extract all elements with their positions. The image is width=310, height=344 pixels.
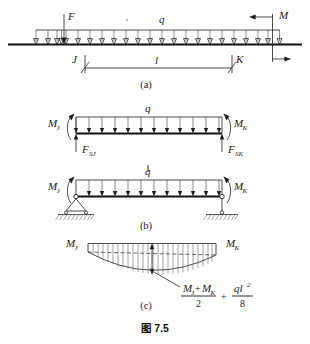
moment-arc-left-b-upper <box>67 114 74 141</box>
formula-denominator-1: 2 <box>196 298 201 309</box>
distributed-load-label-q-b-upper: q <box>145 102 151 114</box>
node-label-K: K <box>235 53 244 65</box>
part-c-group: M J M K M J + M K 2 + ql 2 <box>65 237 253 312</box>
part-b-lower-group: q M J M K <box>47 165 248 232</box>
figure-page: F q M J K <box>0 0 310 344</box>
figure-7-5-canvas: F q M J K <box>0 0 310 344</box>
shear-label-right-sub-b-upper: SK <box>235 150 244 158</box>
distributed-load-label-q-b-lower: q <box>145 165 151 177</box>
span-dimension-line <box>81 62 236 73</box>
shear-label-right-b-upper: F <box>227 143 235 155</box>
ground-hatch-right <box>204 215 239 220</box>
end-moment-label-M: M <box>278 9 289 21</box>
part-label-c: (c) <box>140 300 152 312</box>
moment-label-right-sub-b-lower: K <box>242 187 248 195</box>
moment-diagram-label-left-sub: J <box>75 244 79 252</box>
part-b-upper-group: q M J M K F SJ <box>47 102 248 158</box>
moment-label-right-sub-b-upper: K <box>242 124 248 132</box>
formula-leader-line <box>154 272 180 287</box>
ground-hatch-left <box>56 215 95 220</box>
mid-span-moment-formula: M J + M K 2 + ql 2 8 <box>181 281 253 309</box>
moment-arc-left-b-lower <box>67 177 74 204</box>
moment-label-left-sub-b-upper: J <box>57 124 61 132</box>
moment-diagram-label-right-sub: K <box>234 244 240 252</box>
formula-ql: ql <box>234 282 243 294</box>
point-load-label-F: F <box>67 10 75 22</box>
node-label-J: J <box>72 53 78 65</box>
formula-ql-exponent: 2 <box>247 281 251 289</box>
distributed-load-arrows-b-lower <box>87 180 221 197</box>
distributed-load-arrows-a <box>34 30 282 45</box>
shear-label-left-sub-b-upper: SJ <box>89 150 97 158</box>
shear-arrow-left-b-upper <box>74 134 79 152</box>
moment-arc-right-b-lower <box>224 177 231 204</box>
moment-arc-right-b-upper <box>224 114 231 141</box>
figure-caption: 图 7.5 <box>141 322 169 334</box>
mid-ordinate-arrow <box>150 243 155 275</box>
moment-label-left-sub-b-lower: J <box>57 187 61 195</box>
shear-label-left-b-upper: F <box>81 143 89 155</box>
formula-denominator-2: 8 <box>240 298 245 309</box>
distributed-load-label-q-a: q <box>159 13 165 25</box>
decorative-dot <box>126 19 127 20</box>
end-moment-M <box>249 14 291 62</box>
shear-arrow-right-b-upper <box>220 134 225 152</box>
part-label-a: (a) <box>140 79 152 91</box>
formula-plus-operator: + <box>221 291 227 302</box>
distributed-load-arrows-b-upper <box>74 117 221 134</box>
formula-plus-inner: + <box>195 283 201 294</box>
span-length-label-l: l <box>155 54 158 66</box>
part-label-b: (b) <box>140 220 153 232</box>
roller-support-right <box>204 194 239 220</box>
pin-support-left <box>56 194 95 220</box>
part-a-group: F q M J K <box>8 9 302 91</box>
